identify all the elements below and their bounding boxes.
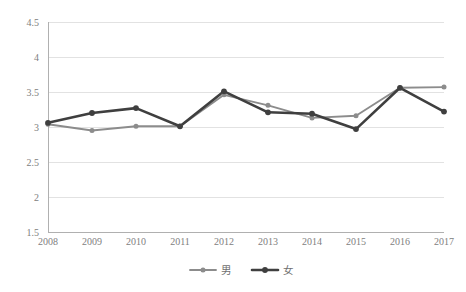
data-point-female [309, 111, 315, 117]
x-tick-label: 2016 [390, 236, 410, 247]
chart-canvas: 1.522.533.544.5 200820092010201120122013… [0, 0, 466, 292]
legend-marker-icon [262, 267, 268, 273]
x-tick-label: 2013 [258, 236, 278, 247]
x-tick-label: 2009 [82, 236, 102, 247]
legend-label: 男 [221, 265, 231, 276]
y-tick-label: 4 [34, 52, 39, 63]
data-point-male [354, 113, 359, 118]
data-point-male [134, 124, 139, 129]
data-point-female [221, 88, 227, 94]
data-point-female [45, 120, 51, 126]
y-tick-label: 3 [34, 122, 39, 133]
x-tick-label: 2008 [38, 236, 58, 247]
data-point-male [266, 103, 271, 108]
x-tick-label: 2014 [302, 236, 322, 247]
y-tick-label: 2.5 [27, 157, 40, 168]
data-point-female [441, 109, 447, 115]
x-tick-label: 2010 [126, 236, 146, 247]
data-point-female [177, 123, 183, 129]
data-point-female [89, 110, 95, 116]
y-tick-label: 4.5 [27, 17, 40, 28]
legend-marker-icon [201, 268, 206, 273]
x-tick-label: 2012 [214, 236, 234, 247]
data-point-male [442, 85, 447, 90]
data-point-female [265, 109, 271, 115]
chart-background [0, 0, 466, 292]
line-chart: 1.522.533.544.5 200820092010201120122013… [0, 0, 466, 292]
y-tick-label: 2 [34, 192, 39, 203]
x-tick-label: 2015 [346, 236, 366, 247]
x-tick-label: 2011 [170, 236, 190, 247]
data-point-male [90, 128, 95, 133]
x-tick-label: 2017 [434, 236, 454, 247]
data-point-female [397, 85, 403, 91]
data-point-female [353, 126, 359, 132]
legend-label: 女 [283, 264, 293, 276]
y-tick-label: 3.5 [27, 87, 40, 98]
data-point-female [133, 105, 139, 111]
